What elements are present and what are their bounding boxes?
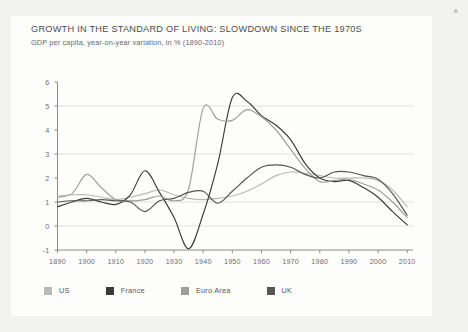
legend-item-us[interactable]: US: [44, 286, 70, 295]
legend-item-france[interactable]: France: [106, 286, 145, 295]
y-axis-tick-label: 3: [45, 150, 49, 159]
series-line-us: [58, 172, 408, 207]
x-axis-tick-label: 1920: [137, 257, 154, 266]
y-axis-tick-label: 4: [45, 126, 49, 135]
legend-swatch-us: [44, 287, 52, 295]
y-axis-tick-labels: -10123456: [43, 78, 50, 255]
legend-label-uk: UK: [282, 286, 293, 295]
data-series-lines: [58, 93, 408, 249]
legend-swatch-euro-area: [181, 287, 189, 295]
x-axis-tick-label: 1930: [166, 257, 183, 266]
y-axis-tick-label: -1: [43, 246, 50, 255]
legend-label-us: US: [59, 286, 70, 295]
x-axis-tick-label: 1940: [195, 257, 212, 266]
y-axis-tick-label: 2: [45, 174, 49, 183]
legend-item-euro-area[interactable]: Euro Area: [181, 286, 231, 295]
page-root: A GROWTH IN THE STANDARD OF LIVING: SLOW…: [0, 0, 468, 332]
chart-legend: USFranceEuro AreaUK: [44, 286, 328, 295]
series-line-uk: [58, 165, 408, 215]
legend-swatch-france: [106, 287, 114, 295]
y-axis-tick-label: 1: [45, 198, 49, 207]
x-axis-tick-label: 1990: [340, 257, 357, 266]
x-axis-tick-label: 1890: [49, 257, 66, 266]
x-axis-tick-labels: 1890190019101920193019401950196019701980…: [49, 257, 415, 266]
x-axis-tick-label: 1900: [78, 257, 95, 266]
x-axis-tick-label: 1970: [282, 257, 299, 266]
grid-lines: [58, 106, 414, 226]
legend-label-france: France: [121, 286, 145, 295]
series-line-france: [58, 93, 408, 249]
x-axis-tick-label: 1910: [107, 257, 124, 266]
x-axis-tick-label: 1980: [311, 257, 328, 266]
x-axis-tick-label: 1950: [224, 257, 241, 266]
axis-lines: [55, 82, 414, 253]
legend-swatch-uk: [267, 287, 275, 295]
x-axis-tick-label: 1960: [253, 257, 270, 266]
x-axis-tick-label: 2000: [370, 257, 387, 266]
legend-item-uk[interactable]: UK: [267, 286, 293, 295]
x-axis-tick-label: 2010: [399, 257, 416, 266]
legend-label-euro-area: Euro Area: [196, 286, 231, 295]
line-chart-plot: -10123456 189019001910192019301940195019…: [0, 0, 468, 332]
y-axis-tick-label: 0: [45, 222, 49, 231]
y-axis-tick-label: 6: [45, 78, 49, 87]
y-axis-tick-label: 5: [45, 102, 49, 111]
